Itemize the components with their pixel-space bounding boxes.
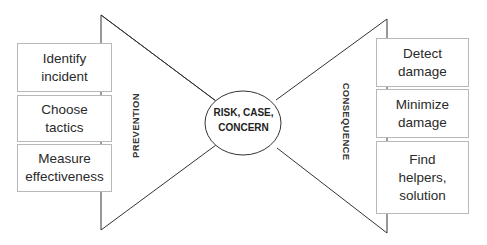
box-label: Detect damage bbox=[398, 45, 447, 81]
box-find-helpers-solution: Find helpers, solution bbox=[376, 141, 469, 214]
consequence-triangle-top-edge bbox=[276, 19, 387, 100]
center-label: RISK, CASE, CONCERN bbox=[205, 105, 282, 135]
box-identify-incident: Identify incident bbox=[17, 43, 112, 92]
box-label: Find helpers, solution bbox=[398, 151, 446, 205]
consequence-label: CONSEQUENCE bbox=[341, 83, 352, 161]
box-label: Choose tactics bbox=[41, 101, 88, 137]
box-label: Identify incident bbox=[41, 50, 88, 86]
box-choose-tactics: Choose tactics bbox=[17, 95, 112, 142]
box-label: Measure effectiveness bbox=[25, 150, 104, 186]
prevention-triangle-bottom-edge bbox=[101, 145, 216, 230]
box-detect-damage: Detect damage bbox=[376, 38, 469, 87]
prevention-label: PREVENTION bbox=[130, 93, 141, 158]
box-label: Minimize damage bbox=[396, 96, 449, 132]
box-minimize-damage: Minimize damage bbox=[376, 89, 469, 138]
box-measure-effectiveness: Measure effectiveness bbox=[17, 144, 112, 192]
prevention-triangle-top-edge bbox=[101, 15, 216, 101]
consequence-triangle-bottom-edge bbox=[277, 148, 387, 233]
